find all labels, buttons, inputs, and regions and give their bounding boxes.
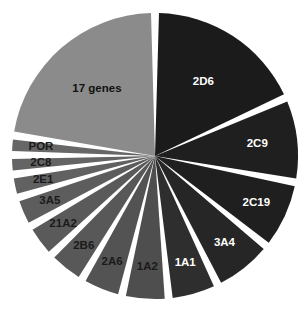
pie-label-3a5: 3A5: [39, 194, 61, 206]
pie-label-3a4: 3A4: [214, 236, 236, 248]
pie-label-2a6: 2A6: [102, 255, 123, 267]
pie-label-1a2: 1A2: [137, 260, 158, 272]
pie-label-21a2: 21A2: [49, 217, 77, 229]
pie-label-2c9: 2C9: [247, 137, 268, 149]
pie-chart-svg: 2D62C92C193A41A11A22A62B621A23A52E12C8PO…: [0, 0, 308, 315]
pie-chart-figure: 2D62C92C193A41A11A22A62B621A23A52E12C8PO…: [0, 0, 308, 315]
pie-label-2c19: 2C19: [243, 196, 271, 208]
pie-label-2c8: 2C8: [30, 156, 52, 168]
pie-label-2e1: 2E1: [33, 173, 54, 185]
pie-slice-layer: [12, 13, 298, 299]
pie-label-1a1: 1A1: [175, 256, 197, 268]
pie-label-2b6: 2B6: [73, 239, 94, 251]
pie-label-17-genes: 17 genes: [72, 82, 121, 94]
pie-label-por: POR: [28, 140, 54, 152]
pie-label-2d6: 2D6: [193, 75, 214, 87]
